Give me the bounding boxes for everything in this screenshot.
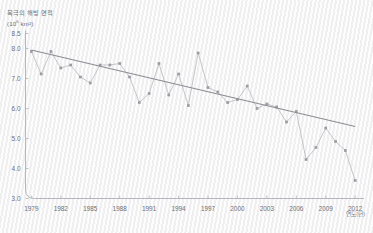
plot-area: 3.04.05.06.07.08.08.5 197919821985198819… — [0, 0, 373, 233]
svg-text:1979: 1979 — [24, 205, 39, 212]
svg-text:5.0: 5.0 — [12, 135, 21, 142]
svg-text:6.0: 6.0 — [12, 105, 21, 112]
svg-text:4.0: 4.0 — [12, 165, 21, 172]
svg-text:1982: 1982 — [54, 205, 69, 212]
series-markers — [30, 50, 356, 182]
svg-text:2003: 2003 — [260, 205, 275, 212]
svg-text:1985: 1985 — [83, 205, 98, 212]
svg-text:1991: 1991 — [142, 205, 157, 212]
svg-text:3.0: 3.0 — [12, 195, 21, 202]
axis-tick-marks — [26, 34, 356, 199]
svg-text:2009: 2009 — [319, 205, 334, 212]
svg-text:8.0: 8.0 — [12, 45, 21, 52]
series-line — [31, 52, 355, 181]
svg-text:2000: 2000 — [230, 205, 245, 212]
svg-text:1997: 1997 — [201, 205, 216, 212]
svg-text:2006: 2006 — [289, 205, 304, 212]
svg-text:8.5: 8.5 — [12, 30, 21, 37]
svg-text:2012: 2012 — [348, 205, 363, 212]
chart-canvas: 북극의 해빙 면적 (106 km²) 연도(년) 3.04.05.06.07.… — [0, 0, 373, 233]
y-axis-tick-labels: 3.04.05.06.07.08.08.5 — [12, 30, 21, 202]
axis-lines — [26, 31, 365, 199]
x-axis-tick-labels: 1979198219851988199119941997200020032006… — [24, 205, 362, 212]
svg-text:7.0: 7.0 — [12, 75, 21, 82]
trend-line — [31, 50, 355, 127]
svg-text:1994: 1994 — [171, 205, 186, 212]
svg-text:1988: 1988 — [113, 205, 128, 212]
